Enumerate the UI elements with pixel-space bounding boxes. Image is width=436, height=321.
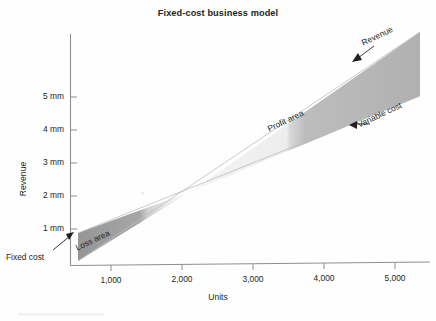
revenue-leader: [352, 46, 374, 62]
y-tick-label-5mm: 5 mm: [8, 91, 64, 101]
chart-figure: Fixed-cost business model: [0, 0, 436, 321]
y-tick-label-4mm: 4 mm: [8, 124, 64, 134]
x-axis: [71, 262, 431, 266]
y-axis-title: Revenue: [18, 149, 28, 209]
revenue-line: [78, 32, 420, 261]
y-tick-label-2mm: 2 mm: [8, 190, 64, 200]
x-tick-label-5000: 5,000: [370, 273, 420, 283]
x-tick-label-4000: 4,000: [299, 273, 349, 283]
annotation-fixed-cost: Fixed cost: [6, 252, 44, 262]
x-tick-label-1000: 1,000: [86, 275, 136, 285]
x-tick-label-3000: 3,000: [228, 274, 278, 284]
x-tick-label-2000: 2,000: [157, 274, 207, 284]
y-tick-label-1mm: 1 mm: [8, 223, 64, 233]
scan-artifact: [18, 313, 104, 316]
y-tick-label-3mm: 3 mm: [8, 157, 64, 167]
scan-speck: [141, 191, 144, 194]
x-axis-title: Units: [0, 292, 436, 302]
